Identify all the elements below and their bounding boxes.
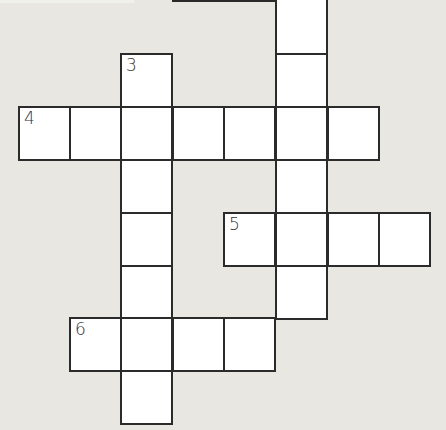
cell-letter-input[interactable]: [122, 161, 171, 212]
crossword-cell[interactable]: 6: [69, 317, 122, 372]
cell-letter-input[interactable]: [225, 214, 274, 265]
crossword-cell[interactable]: [120, 370, 173, 425]
crossword-cell[interactable]: [120, 265, 173, 320]
cell-letter-input[interactable]: [380, 214, 429, 265]
cell-letter-input[interactable]: [20, 108, 69, 159]
cell-letter-input[interactable]: [174, 108, 223, 159]
crossword-cell[interactable]: [275, 106, 328, 161]
crossword-cell[interactable]: [172, 106, 225, 161]
cell-letter-input[interactable]: [122, 319, 171, 370]
crossword-cell[interactable]: [120, 106, 173, 161]
crossword-cell[interactable]: [275, 265, 328, 320]
cell-letter-input[interactable]: [122, 267, 171, 318]
cell-letter-input[interactable]: [277, 0, 326, 53]
cell-letter-input[interactable]: [71, 108, 120, 159]
crossword-cell[interactable]: [327, 212, 380, 267]
crossword-cell[interactable]: [172, 317, 225, 372]
cell-letter-input[interactable]: [225, 319, 274, 370]
crossword-cell[interactable]: [120, 159, 173, 214]
crossword-cell[interactable]: [275, 53, 328, 108]
cell-letter-input[interactable]: [277, 161, 326, 212]
cell-letter-input[interactable]: [122, 214, 171, 265]
cell-letter-input[interactable]: [277, 214, 326, 265]
crossword-grid: 3456: [0, 0, 446, 430]
crossword-cell[interactable]: [378, 212, 431, 267]
cell-letter-input[interactable]: [277, 267, 326, 318]
crossword-cell[interactable]: [275, 159, 328, 214]
cell-letter-input[interactable]: [174, 319, 223, 370]
cell-letter-input[interactable]: [329, 214, 378, 265]
crossword-cell[interactable]: 4: [18, 106, 71, 161]
crossword-cell[interactable]: [223, 317, 276, 372]
crossword-cell[interactable]: [327, 106, 380, 161]
crossword-cell[interactable]: [120, 317, 173, 372]
cell-letter-input[interactable]: [329, 108, 378, 159]
crossword-cell[interactable]: 3: [120, 53, 173, 108]
crossword-cell[interactable]: 5: [223, 212, 276, 267]
crossword-cell[interactable]: [120, 212, 173, 267]
crossword-cell[interactable]: [223, 106, 276, 161]
cell-letter-input[interactable]: [122, 108, 171, 159]
cell-letter-input[interactable]: [71, 319, 120, 370]
cell-letter-input[interactable]: [122, 372, 171, 423]
cell-letter-input[interactable]: [122, 55, 171, 106]
crossword-cell[interactable]: [69, 106, 122, 161]
cell-letter-input[interactable]: [277, 108, 326, 159]
crossword-cell[interactable]: [275, 212, 328, 267]
crossword-cell[interactable]: [275, 0, 328, 55]
cell-letter-input[interactable]: [225, 108, 274, 159]
cell-letter-input[interactable]: [277, 55, 326, 106]
